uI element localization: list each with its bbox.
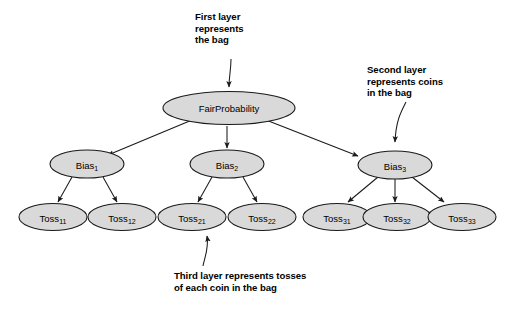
annotation-third-layer: Third layer represents tosses of each co… bbox=[174, 270, 306, 293]
node-fairprobability[interactable]: FairProbability bbox=[163, 92, 295, 125]
callout-arrow-third-layer bbox=[203, 236, 208, 266]
callout-arrow-second-layer bbox=[395, 102, 406, 142]
edge-bias-3-to-toss-33 bbox=[412, 177, 444, 202]
edge-root-to-bias-1 bbox=[108, 120, 192, 155]
node-toss-33[interactable]: Toss33 bbox=[428, 204, 496, 231]
edge-bias-1-to-toss-11 bbox=[58, 177, 72, 202]
network-diagram: FairProbability Bias1 Bias2 Bias3 Toss11… bbox=[0, 0, 510, 311]
node-toss-22[interactable]: Toss22 bbox=[228, 204, 296, 231]
annotation-second-layer: Second layer represents coins in the bag bbox=[367, 64, 443, 99]
node-fairprobability-label: FairProbability bbox=[199, 103, 260, 114]
callout-arrow-first-layer bbox=[229, 59, 231, 87]
node-toss-11[interactable]: Toss11 bbox=[19, 204, 87, 231]
edge-bias-1-to-toss-12 bbox=[103, 177, 117, 202]
node-bias-2[interactable]: Bias2 bbox=[190, 150, 264, 178]
node-bias-3[interactable]: Bias3 bbox=[358, 151, 432, 179]
node-toss-32[interactable]: Toss32 bbox=[363, 204, 431, 231]
edge-bias-2-to-toss-21 bbox=[198, 177, 212, 202]
edge-bias-2-to-toss-22 bbox=[243, 177, 257, 202]
node-bias-1[interactable]: Bias1 bbox=[50, 150, 124, 178]
edge-bias-3-to-toss-31 bbox=[348, 177, 378, 202]
annotation-first-layer: First layer represents the bag bbox=[195, 11, 244, 46]
node-toss-12[interactable]: Toss12 bbox=[88, 204, 156, 231]
edge-root-to-bias-3 bbox=[266, 120, 358, 156]
node-toss-31[interactable]: Toss31 bbox=[303, 204, 371, 231]
node-toss-21[interactable]: Toss21 bbox=[158, 204, 226, 231]
diagram-canvas: FairProbability Bias1 Bias2 Bias3 Toss11… bbox=[0, 0, 510, 311]
